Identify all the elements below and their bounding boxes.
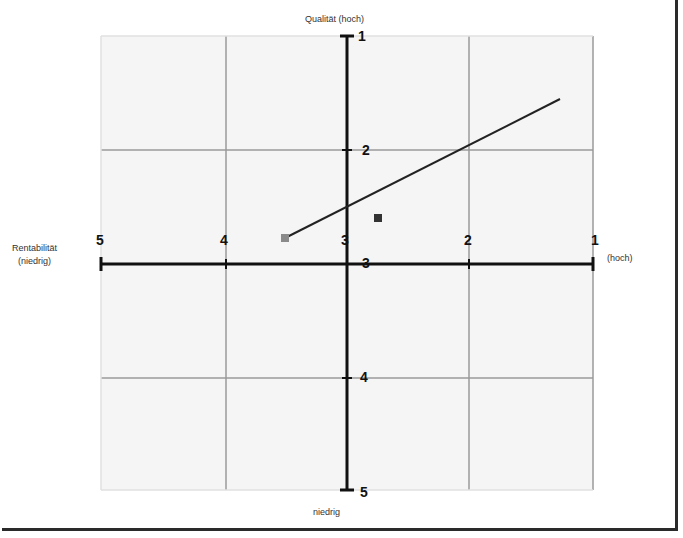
- x-axis-label-left: Rentabilität: [12, 243, 57, 253]
- x-axis-label-right: (hoch): [607, 253, 633, 263]
- x-axis-label-left-sub: (niedrig): [18, 256, 51, 266]
- x-tick-5: 5: [96, 232, 104, 248]
- data-point-b: [374, 214, 382, 222]
- axes: [101, 36, 593, 490]
- y-tick-4: 4: [360, 369, 368, 385]
- y-axis-label-top: Qualität (hoch): [305, 14, 364, 24]
- y-tick-5: 5: [360, 484, 368, 500]
- x-tick-3: 3: [341, 232, 349, 248]
- x-tick-1: 1: [591, 232, 599, 248]
- x-tick-2: 2: [464, 232, 472, 248]
- x-tick-4: 4: [220, 232, 228, 248]
- y-tick-2: 2: [362, 142, 370, 158]
- y-axis-label-bottom: niedrig: [313, 507, 340, 517]
- data-point-a: [281, 234, 289, 242]
- trend-line: [285, 99, 560, 238]
- y-tick-1: 1: [358, 28, 366, 44]
- y-tick-3: 3: [362, 255, 370, 271]
- quadrant-chart: [0, 0, 683, 538]
